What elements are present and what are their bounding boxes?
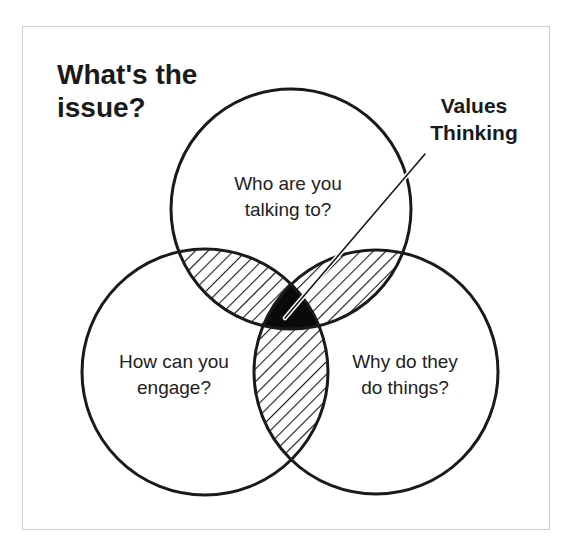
circle-top-line-1: Who are you [203, 171, 373, 197]
circle-right-line-1: Why do they [320, 349, 490, 375]
circle-left-line-1: How can you [89, 349, 259, 375]
circle-right-line-2: do things? [320, 375, 490, 401]
diagram-title: What's the issue? [57, 58, 197, 124]
circle-top-line-2: talking to? [203, 197, 373, 223]
title-line-1: What's the [57, 58, 197, 91]
callout-label: Values Thinking [414, 92, 534, 146]
callout-line-1: Values [414, 92, 534, 119]
circle-label-right: Why do they do things? [320, 349, 490, 401]
circle-left-line-2: engage? [89, 375, 259, 401]
circle-label-left: How can you engage? [89, 349, 259, 401]
title-line-2: issue? [57, 91, 197, 124]
circle-label-top: Who are you talking to? [203, 171, 373, 223]
callout-line-2: Thinking [414, 119, 534, 146]
